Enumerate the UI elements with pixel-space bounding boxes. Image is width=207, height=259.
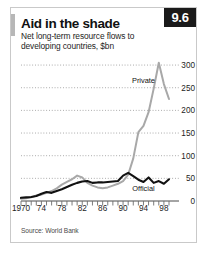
y-axis-tick-label: 300: [181, 61, 195, 70]
x-axis-tick-label: 90: [119, 204, 128, 213]
y-axis-tick-label: 250: [181, 83, 195, 92]
y-axis-tick-label: 200: [181, 106, 195, 115]
series-annotation-private: Private: [132, 75, 155, 84]
y-axis-tick-label: 0: [190, 197, 195, 206]
title-accent-bar: [11, 14, 15, 36]
x-axis-tick-label: 94: [139, 204, 148, 213]
y-axis-tick-label: 50: [186, 174, 195, 183]
x-axis-tick-label: 82: [78, 204, 87, 213]
source-note: Source: World Bank: [21, 227, 79, 234]
chart-title: Aid in the shade: [21, 16, 120, 31]
x-axis-tick-label: 1970: [12, 204, 30, 213]
chart-subtitle: Net long-term resource flows to developi…: [21, 32, 171, 51]
y-axis-labels: 050100150200250300: [174, 56, 198, 201]
series-annotation-official: Official: [132, 184, 154, 193]
y-axis-tick-label: 100: [181, 151, 195, 160]
x-axis-tick-label: 74: [37, 204, 46, 213]
chart-figure: 9.6 Aid in the shade Net long-term resou…: [10, 7, 197, 243]
figure-number-badge: 9.6: [164, 8, 196, 27]
x-axis-labels: 197074788286909498: [21, 204, 169, 216]
x-axis-tick-label: 86: [98, 204, 107, 213]
y-axis-tick-label: 150: [181, 129, 195, 138]
x-axis-tick-label: 98: [159, 204, 168, 213]
x-axis-tick-label: 78: [57, 204, 66, 213]
